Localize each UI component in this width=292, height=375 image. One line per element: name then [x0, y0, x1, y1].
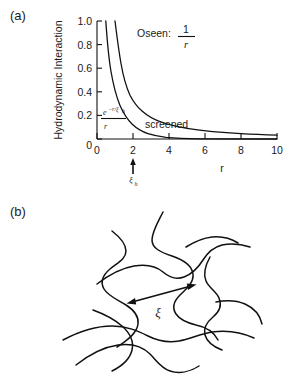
y-tick-label-0_8: 0.8 [77, 39, 92, 51]
y-axis-title: Hydrodynamic Interaction [52, 20, 64, 139]
mesh-size-arrow-shaft [132, 286, 191, 302]
panel-b: (b) [0, 190, 292, 375]
curve-screened [106, 21, 277, 139]
oseen-denominator: r [184, 39, 189, 50]
y-axis-ticks [97, 21, 102, 139]
x-axis-title: r [220, 162, 224, 174]
y-tick-label-0_4: 0.4 [77, 86, 92, 98]
xi-h-marker: ξ h [129, 158, 137, 187]
screened-formula-exponent-sub: h [122, 108, 125, 114]
polymer-chain-8 [186, 237, 238, 247]
figure-container: (a) 1.0 0.8 0.6 0.4 0.2 [0, 0, 292, 375]
oseen-numerator: 1 [183, 23, 189, 35]
x-tick-label-6: 6 [202, 144, 208, 156]
x-tick-label-4: 4 [166, 144, 172, 156]
y-tick-label-1_0: 1.0 [77, 15, 92, 27]
oseen-label-text: Oseen: [137, 27, 171, 39]
y-tick-label-0_6: 0.6 [77, 62, 92, 74]
screened-curve-label: screened [145, 118, 188, 130]
xi-h-subscript: h [135, 181, 138, 187]
panel-b-label: (b) [10, 204, 26, 219]
hydrodynamic-interaction-chart: 1.0 0.8 0.6 0.4 0.2 0 0 2 4 6 [0, 0, 292, 190]
screened-formula-numerator: e [103, 108, 107, 117]
polymer-chain-6 [76, 344, 199, 372]
x-tick-label-2: 2 [130, 144, 136, 156]
polymer-chain-9 [216, 301, 262, 324]
xi-h-symbol: ξ [129, 176, 133, 185]
y-tick-label-0_2: 0.2 [77, 109, 92, 121]
polymer-mesh-diagram: ξ [0, 190, 292, 375]
screened-formula-annotation: e −r/ξ h r [101, 106, 126, 131]
mesh-size-arrow-head-left [127, 298, 137, 305]
polymer-chain-group [63, 212, 262, 372]
polymer-chain-5 [63, 326, 254, 342]
panel-a: (a) 1.0 0.8 0.6 0.4 0.2 [0, 0, 292, 190]
mesh-size-label: ξ [155, 305, 161, 320]
x-axis-tick-labels: 0 2 4 6 8 10 [94, 144, 283, 156]
xi-h-arrow-head [130, 158, 136, 165]
mesh-size-arrow-head-right [187, 283, 197, 290]
screened-formula-denominator: r [104, 122, 108, 131]
x-tick-label-10: 10 [271, 144, 283, 156]
y-tick-label-0: 0 [86, 139, 92, 151]
panel-a-label: (a) [10, 8, 26, 23]
polymer-chain-3 [97, 244, 250, 284]
oseen-annotation: Oseen: 1 r [137, 23, 195, 50]
x-tick-label-8: 8 [238, 144, 244, 156]
screened-formula-exponent: −r/ξ [108, 106, 119, 113]
polymer-chain-4 [204, 257, 222, 350]
y-axis-tick-labels: 1.0 0.8 0.6 0.4 0.2 0 [77, 15, 92, 151]
x-tick-label-0: 0 [94, 144, 100, 156]
